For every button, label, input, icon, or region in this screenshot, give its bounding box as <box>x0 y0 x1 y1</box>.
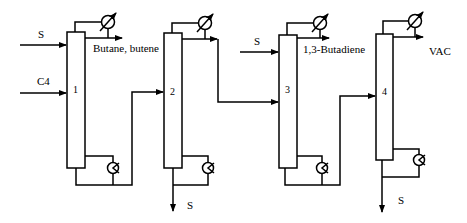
condenser-4-vapor-line <box>383 21 408 34</box>
condenser-icon <box>407 12 423 30</box>
condenser-icon <box>197 14 213 32</box>
column-4-label: 4 <box>382 86 387 97</box>
column-2-label: 2 <box>170 86 175 97</box>
process-flow-diagram: 1 S C4 Butane, butene 2 S 3 <box>0 0 467 223</box>
bottoms-3-to-column-4 <box>285 96 375 185</box>
top-2-to-column-3 <box>218 39 278 102</box>
column-2-body <box>164 33 182 168</box>
top-product-4-label: VAC <box>429 45 451 57</box>
reboiler-3-return <box>297 156 322 162</box>
condenser-3-vapor-line <box>287 23 313 35</box>
reboiler-4-feed <box>382 166 419 178</box>
reboiler-2-feed <box>173 174 208 186</box>
bottom-4-label: S <box>398 194 404 206</box>
reboiler-icon <box>317 163 329 174</box>
bottoms-1-to-column-2 <box>76 92 163 185</box>
column-1-label: 1 <box>73 84 78 95</box>
bottom-2-label: S <box>187 199 193 211</box>
column-3: 3 <box>279 35 297 168</box>
column-1-body <box>67 32 85 168</box>
reboiler-4-return <box>393 149 419 154</box>
column-4: 4 <box>376 34 393 160</box>
feed-c4-label: C4 <box>37 75 50 87</box>
column-1: 1 <box>67 32 85 168</box>
top-product-3-label: 1,3-Butadiene <box>303 43 365 55</box>
column-2: 2 <box>164 33 182 168</box>
column-3-label: 3 <box>285 84 290 95</box>
reboiler-2-return <box>182 156 208 162</box>
column-3-body <box>279 35 297 168</box>
reboiler-icon <box>108 163 120 174</box>
condenser-1-vapor-line <box>75 22 101 32</box>
reboiler-1-return <box>85 156 113 162</box>
condenser-2-vapor-line <box>172 23 198 33</box>
column-4-body <box>376 34 393 160</box>
solvent-inlet-3-label: S <box>254 35 260 47</box>
top-product-1-label: Butane, butene <box>93 42 159 54</box>
solvent-inlet-1-label: S <box>38 28 44 40</box>
reboiler-icon <box>203 163 215 174</box>
reboiler-icon <box>414 155 426 166</box>
condenser-icon <box>312 14 328 32</box>
condenser-icon <box>100 13 116 31</box>
